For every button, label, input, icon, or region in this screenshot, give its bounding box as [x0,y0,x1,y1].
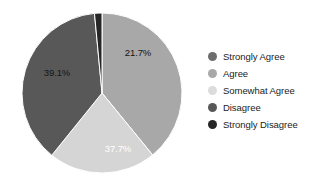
legend-swatch-icon [208,103,217,112]
pie-slice-group [22,13,182,173]
legend-swatch-icon [208,69,217,78]
pie-plot-area: 39.1%21.7%37.7% [0,0,200,183]
pie-svg [0,0,200,183]
legend-item[interactable]: Strongly Agree [208,48,329,65]
chart-legend: Strongly AgreeAgreeSomewhat AgreeDisagre… [208,48,329,133]
legend-item[interactable]: Strongly Disagree [208,116,329,133]
pie-chart-figure: 39.1%21.7%37.7% Strongly AgreeAgreeSomew… [0,0,329,183]
legend-item-label: Agree [223,68,248,79]
legend-item-label: Disagree [223,102,261,113]
legend-item-label: Strongly Agree [223,51,285,62]
legend-swatch-icon [208,120,217,129]
legend-item-label: Strongly Disagree [223,119,298,130]
legend-item[interactable]: Disagree [208,99,329,116]
legend-item[interactable]: Agree [208,65,329,82]
legend-item-label: Somewhat Agree [223,85,295,96]
legend-swatch-icon [208,52,217,61]
legend-item[interactable]: Somewhat Agree [208,82,329,99]
legend-swatch-icon [208,86,217,95]
